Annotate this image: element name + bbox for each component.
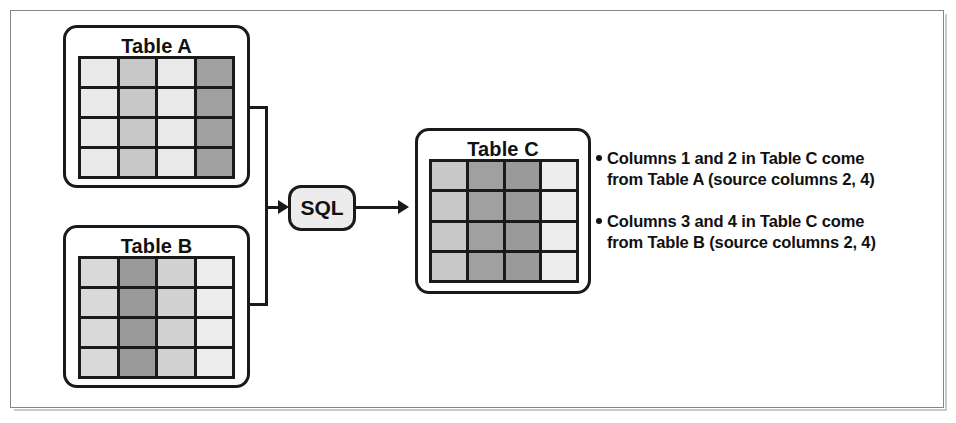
table-cell: [197, 119, 233, 146]
note-item: Columns 1 and 2 in Table C come from Tab…: [596, 148, 896, 190]
table-cell: [158, 119, 194, 146]
table-cell: [469, 162, 503, 189]
table-cell: [542, 192, 576, 219]
table-cell: [120, 149, 156, 176]
note-item: Columns 3 and 4 in Table C come from Tab…: [596, 211, 896, 253]
bullet-icon: [596, 218, 602, 224]
table-cell: [158, 89, 194, 116]
table-cell: [469, 253, 503, 280]
note-text: Columns 1 and 2 in Table C come from Tab…: [607, 149, 875, 188]
table-cell: [158, 349, 194, 376]
table-c-title: Table C: [418, 138, 588, 161]
table-cell: [432, 223, 466, 250]
table-cell: [81, 149, 117, 176]
table-cell: [469, 223, 503, 250]
note-text: Columns 3 and 4 in Table C come from Tab…: [607, 212, 876, 251]
table-cell: [81, 119, 117, 146]
table-cell: [506, 192, 540, 219]
table-b-title: Table B: [66, 235, 247, 258]
diagram-canvas: Table A Table B SQL Table C Columns 1 an…: [0, 0, 956, 423]
table-cell: [432, 192, 466, 219]
sql-label: SQL: [300, 196, 343, 220]
table-cell: [197, 349, 233, 376]
table-cell: [158, 259, 194, 286]
table-cell: [197, 319, 233, 346]
table-cell: [120, 349, 156, 376]
table-cell: [197, 89, 233, 116]
table-cell: [120, 59, 156, 86]
arrowhead-into-table-c: [398, 200, 409, 214]
table-cell: [120, 319, 156, 346]
table-cell: [469, 192, 503, 219]
table-cell: [506, 162, 540, 189]
sql-process-node[interactable]: SQL: [288, 185, 356, 231]
table-cell: [158, 289, 194, 316]
table-cell: [81, 89, 117, 116]
table-cell: [432, 253, 466, 280]
table-cell: [81, 59, 117, 86]
table-cell: [158, 149, 194, 176]
notes-list: Columns 1 and 2 in Table C come from Tab…: [596, 148, 896, 267]
table-cell: [542, 223, 576, 250]
table-cell: [120, 289, 156, 316]
table-cell: [542, 253, 576, 280]
connector-sql-to-table-c: [356, 206, 400, 209]
table-cell: [120, 89, 156, 116]
table-cell: [506, 253, 540, 280]
table-cell: [81, 349, 117, 376]
table-cell: [158, 59, 194, 86]
table-cell: [542, 162, 576, 189]
table-cell: [197, 259, 233, 286]
table-a-title: Table A: [66, 35, 247, 58]
figure-frame-shadow-right: [945, 14, 947, 410]
figure-frame-shadow-bottom: [14, 409, 947, 411]
table-cell: [197, 59, 233, 86]
table-cell: [81, 259, 117, 286]
table-cell: [81, 289, 117, 316]
table-c-grid: [429, 159, 579, 283]
table-cell: [120, 119, 156, 146]
table-cell: [81, 319, 117, 346]
table-cell: [197, 289, 233, 316]
table-cell: [432, 162, 466, 189]
bullet-icon: [596, 155, 602, 161]
table-cell: [197, 149, 233, 176]
table-cell: [158, 319, 194, 346]
table-b-grid: [78, 256, 235, 379]
table-a-grid: [78, 56, 235, 179]
table-cell: [506, 223, 540, 250]
table-cell: [120, 259, 156, 286]
